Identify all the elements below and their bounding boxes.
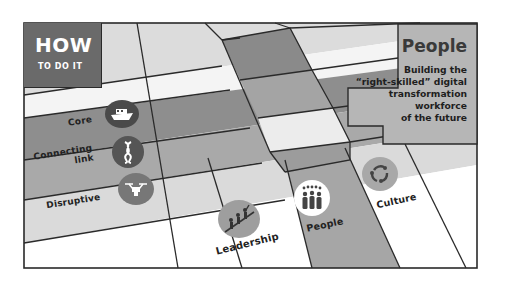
description-line: Building the: [356, 64, 467, 76]
ship-icon: [105, 100, 139, 128]
description-line: transformation: [356, 88, 467, 100]
drone-icon: [118, 173, 154, 205]
description-line: of the future: [356, 112, 467, 124]
knot-icon: [112, 136, 144, 168]
cycle-arrows-icon: [362, 157, 398, 191]
climbing-team-icon: [218, 200, 260, 238]
focus-panel-description: Building the “right-skilled” digital tra…: [356, 64, 467, 124]
crowd-icon: [294, 180, 330, 216]
description-line: “right-skilled” digital: [356, 76, 467, 88]
focus-panel-title: People: [402, 36, 467, 56]
people-focus-panel: People Building the “right-skilled” digi…: [348, 24, 477, 144]
description-line: workforce: [356, 100, 467, 112]
how-to-do-it-board: HOW TO DO IT People Building the “right-…: [0, 0, 505, 282]
